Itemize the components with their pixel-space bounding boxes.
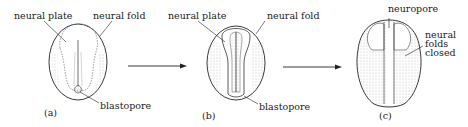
- neurulation-diagram: neural plate neural fold blastopore (a) …: [0, 0, 468, 127]
- caption-a: (a): [44, 108, 57, 118]
- embryo-b: [198, 21, 265, 104]
- arrow-b-to-c: [283, 65, 342, 70]
- label-a-neural-plate: neural plate: [14, 11, 72, 21]
- arrow-a-to-b: [128, 64, 187, 69]
- label-b-neural-fold: neural fold: [267, 11, 319, 21]
- embryo-a: [44, 21, 112, 103]
- caption-c: (c): [379, 111, 392, 121]
- label-c-neuropore: neuropore: [388, 4, 438, 14]
- label-c-neural-folds-closed: neural folds closed: [425, 30, 456, 57]
- caption-b: (b): [202, 111, 216, 121]
- label-a-neural-fold: neural fold: [93, 11, 145, 21]
- label-b-blastopore: blastopore: [259, 102, 310, 112]
- embryo-c: [357, 18, 423, 107]
- label-b-neural-plate: neural plate: [168, 11, 226, 21]
- label-a-blastopore: blastopore: [100, 101, 151, 111]
